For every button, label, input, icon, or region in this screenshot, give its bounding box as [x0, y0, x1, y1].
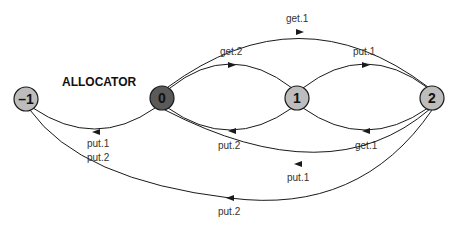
- edge-label-get2: get.2: [220, 46, 243, 57]
- edge-1-to-0-put2: [168, 108, 292, 130]
- edge-2-to-1-get1: [303, 108, 428, 130]
- node-1: 1: [285, 86, 309, 110]
- svg-text:1: 1: [293, 90, 301, 106]
- edge-label-put2-left: put.2: [87, 152, 110, 163]
- edge-0-to-2-get1: [168, 39, 428, 88]
- edge-label-put1-bottom: put.1: [287, 172, 310, 183]
- state-diagram: get.1 get.2 put.1 put.1 put.2 put.2 get.…: [0, 0, 455, 231]
- arrow-icon: [296, 29, 304, 35]
- arrow-icon: [226, 195, 234, 201]
- allocator-title: ALLOCATOR: [62, 75, 137, 89]
- node-minus1: –1: [14, 87, 38, 111]
- edge-1-to-2-put1: [303, 64, 428, 88]
- node-0-initial: 0: [150, 86, 174, 110]
- edge-label-put2-mid: put.2: [218, 140, 241, 151]
- node-2: 2: [420, 86, 444, 110]
- edge-label-put2-bottom: put.2: [218, 206, 241, 217]
- svg-text:–1: –1: [18, 91, 34, 107]
- svg-text:0: 0: [158, 90, 166, 106]
- arrow-icon: [92, 129, 100, 135]
- svg-text:2: 2: [428, 90, 436, 106]
- edge-2-to-0-put1: [165, 109, 430, 152]
- edge-0-to-1-get2: [170, 64, 292, 88]
- arrow-icon: [362, 62, 370, 68]
- edge-0-to-minus1: [33, 108, 155, 129]
- edge-label-put1-top: put.1: [353, 46, 376, 57]
- arrow-icon: [362, 128, 370, 134]
- arrow-icon: [228, 62, 236, 68]
- edge-label-put1-left: put.1: [87, 138, 110, 149]
- edge-label-get1-top: get.1: [286, 13, 309, 24]
- arrow-icon: [294, 161, 302, 167]
- arrow-icon: [228, 128, 236, 134]
